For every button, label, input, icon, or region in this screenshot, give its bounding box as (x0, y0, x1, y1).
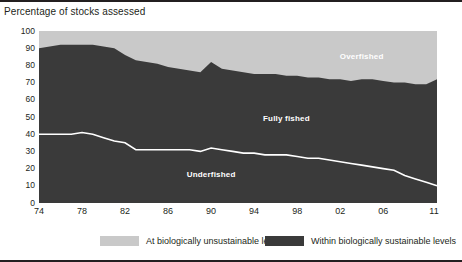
x-axis-tick-label: 06 (378, 206, 388, 216)
chart-title: Percentage of stocks assessed (4, 6, 145, 18)
x-axis-tick-label: 82 (120, 206, 130, 216)
chart-legend: At biologically unsustainable levelsWith… (0, 232, 462, 254)
stacked-area-chart (0, 24, 462, 210)
x-axis-tick-label: 94 (249, 206, 259, 216)
legend-color-swatch (265, 236, 304, 246)
band-annotation-label: Fully fished (263, 114, 310, 123)
top-divider-rule (0, 0, 462, 2)
legend-label: At biologically unsustainable levels (146, 236, 285, 246)
legend-item[interactable]: At biologically unsustainable levels (100, 236, 285, 246)
x-axis-tick-label: 90 (206, 206, 216, 216)
band-annotation-label: Overfished (340, 52, 384, 61)
legend-label: Within biologically sustainable levels (311, 236, 456, 246)
x-axis-tick-label: 98 (292, 206, 302, 216)
chart-plot-area: OverfishedFully fishedUnderfished (0, 24, 462, 210)
x-axis-tick-label: 78 (77, 206, 87, 216)
band-annotation-label: Underfished (187, 170, 236, 179)
x-axis-tick-label: 74 (34, 206, 44, 216)
legend-item[interactable]: Within biologically sustainable levels (265, 236, 456, 246)
x-axis-tick-label: 86 (163, 206, 173, 216)
x-axis-labels: 74788286909498020611 (0, 206, 462, 224)
x-axis-tick-label: 11 (429, 206, 438, 216)
x-axis-tick-label: 02 (335, 206, 345, 216)
legend-color-swatch (100, 236, 139, 246)
